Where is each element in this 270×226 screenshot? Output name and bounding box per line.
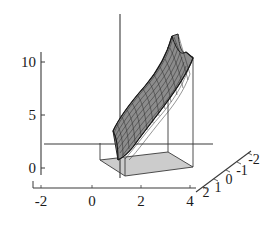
x-tick-label-2: 2 [137, 193, 145, 209]
y-tick-label-neg1: -1 [236, 163, 248, 178]
parabolic-surface [113, 34, 193, 160]
z-tick-label-5: 5 [29, 107, 37, 123]
y-tick-label-1: 1 [215, 180, 222, 195]
x-tick-label-0: 0 [88, 193, 96, 209]
y-tick-label-neg2: -2 [248, 152, 260, 167]
z-tick-label-0: 0 [29, 160, 37, 176]
y-tick-label-0: 0 [226, 172, 233, 187]
x-tick-label-neg2: -2 [35, 193, 48, 209]
plot-canvas: 10 5 0 [0, 0, 270, 226]
z-axis [41, 52, 45, 175]
surface-plot-figure: 10 5 0 [0, 0, 270, 226]
x-tick-label-4: 4 [186, 193, 194, 209]
base-domain-region [100, 152, 193, 176]
x-axis [33, 181, 196, 188]
y-tick-label-2: 2 [203, 185, 210, 200]
z-tick-label-10: 10 [21, 54, 36, 70]
